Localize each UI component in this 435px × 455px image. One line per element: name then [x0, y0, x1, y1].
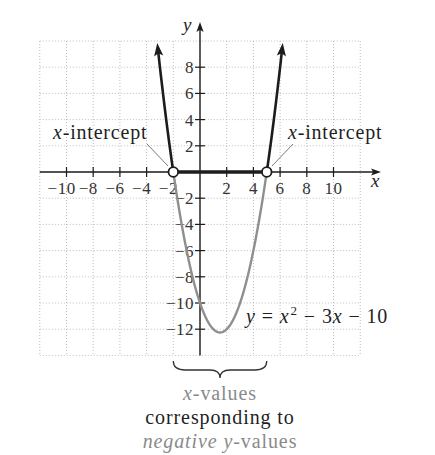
y-tick-label: 8	[185, 58, 194, 77]
x-intercept-point	[262, 167, 272, 177]
equation-coefficient: 3	[322, 305, 333, 327]
left-intercept-leader-line	[147, 144, 168, 166]
equation-exponent: 2	[290, 303, 297, 318]
x-tick-label: −6	[105, 179, 124, 198]
x-tick-label: 8	[302, 179, 311, 198]
intercept-text: -intercept	[63, 121, 148, 143]
left-x-intercept-label: x-intercept	[53, 122, 147, 142]
caption-line-3: negative y-values	[110, 431, 330, 451]
intercept-variable: x	[288, 121, 298, 143]
caption-line-1: x-values	[110, 383, 330, 403]
right-intercept-leader-line	[272, 144, 293, 166]
intercept-text: -intercept	[298, 121, 383, 143]
graph-figure: −10−8−6−4−22468108642−2−4−6−8−10−12 y x …	[0, 0, 435, 455]
equation-constant: 10	[366, 305, 388, 327]
x-tick-label: 10	[325, 179, 343, 198]
intercept-variable: x	[53, 121, 63, 143]
equation-minus: −	[348, 305, 360, 327]
caption-italic-negative: negative	[143, 430, 218, 452]
y-tick-label: 2	[185, 137, 194, 156]
x-tick-label: 4	[249, 179, 258, 198]
caption-text: -values	[233, 430, 297, 452]
y-tick-label: −12	[166, 320, 194, 339]
equation-x: x	[280, 305, 290, 327]
parabola-branch-2	[267, 52, 282, 172]
x-tick-label: −8	[79, 179, 98, 198]
equation-y: y	[246, 305, 256, 327]
x-axis-label: x	[371, 171, 380, 191]
interval-brace	[173, 361, 266, 378]
y-tick-label: −4	[175, 215, 194, 234]
equation-equals: =	[262, 305, 274, 327]
right-x-intercept-label: x-intercept	[288, 122, 382, 142]
x-tick-label: −10	[48, 179, 76, 198]
x-intercept-point	[169, 167, 179, 177]
parabola-branch-0	[158, 52, 173, 172]
equation-minus: −	[304, 305, 316, 327]
equation-x-linear: x	[333, 305, 343, 327]
y-tick-label: 6	[185, 84, 194, 103]
caption-variable: y	[224, 430, 234, 452]
y-axis-label: y	[183, 15, 192, 35]
caption-text: -values	[193, 382, 257, 404]
y-tick-label: −10	[166, 294, 194, 313]
x-tick-label: 6	[276, 179, 285, 198]
x-tick-label: −4	[132, 179, 151, 198]
equation-label: y=x2−3x−10	[246, 306, 388, 329]
caption-line-2: corresponding to	[110, 407, 330, 427]
caption-variable: x	[183, 382, 193, 404]
x-tick-label: 2	[222, 179, 231, 198]
y-tick-label: 4	[185, 111, 194, 130]
